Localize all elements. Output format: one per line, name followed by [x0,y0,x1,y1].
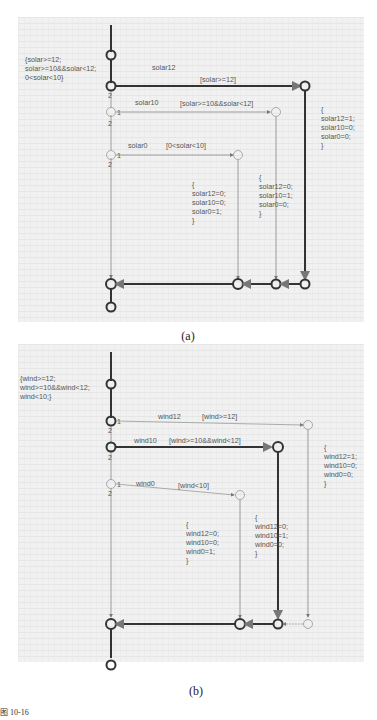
svg-text:{: { [186,520,189,529]
svg-text:wind12=0;: wind12=0; [185,529,219,538]
svg-text:solar12=1;: solar12=1; [321,114,355,123]
svg-text:wind<10;}: wind<10;} [19,392,52,401]
svg-text:2: 2 [108,92,112,99]
panel-b-diagram: 1 2 2 1 2 {wind>=12; wind>=10&&wind<12; … [19,352,357,698]
junction-node [106,619,116,629]
svg-text:{: { [259,173,262,182]
svg-text:0<solar<10}: 0<solar<10} [25,73,64,82]
svg-text:wind0=1;: wind0=1; [185,547,215,556]
svg-text:wind0=0;: wind0=0; [254,540,284,549]
panel-a-diagram: 2 1 2 1 2 {solar>=12; solar>=10&&solar<1… [25,25,355,343]
svg-text:{: { [255,513,258,522]
action-block-12: { wind12=1; wind10=0; wind0=0; } [323,443,357,488]
svg-text:wind0=0;: wind0=0; [323,470,353,479]
svg-text:2: 2 [108,427,112,434]
svg-text:{: { [324,443,327,452]
junction-node [234,151,243,160]
junction-node [272,280,281,289]
svg-text:wind10=0;: wind10=0; [185,538,219,547]
svg-text:1: 1 [117,152,121,159]
action-block-0: { solar12=0; solar10=0; solar0=1; } [192,180,226,225]
svg-text:}: } [255,549,258,558]
event-label: wind0 [135,479,155,488]
caption-b: (b) [189,684,203,698]
condition-note: {solar>=12; [25,55,61,64]
action-block-0: { wind12=0; wind10=0; wind0=1; } [185,520,219,565]
svg-text:solar10=0;: solar10=0; [321,123,355,132]
svg-text:2: 2 [108,490,112,497]
event-label: solar10 [135,98,159,107]
junction-node [106,279,116,289]
svg-text:2: 2 [108,120,112,127]
svg-text:}: } [321,141,324,150]
guard-label: [solar>=10&&solar<12] [180,99,253,108]
event-label: solar0 [128,141,148,150]
junction-node [107,303,116,312]
svg-text:solar12=0;: solar12=0; [192,189,226,198]
junction-node [273,442,283,452]
svg-text:{: { [192,180,195,189]
action-block-12: { solar12=1; solar10=0; solar0=0; } [321,105,355,150]
svg-text:solar0=0;: solar0=0; [259,200,289,209]
svg-text:solar0=0;: solar0=0; [321,132,351,141]
svg-text:wind12=0;: wind12=0; [254,522,288,531]
junction-node [301,82,310,91]
svg-text:1: 1 [117,109,121,116]
guard-label: [solar>=12] [200,75,236,84]
junction-node [233,279,243,289]
svg-text:}: } [259,209,262,218]
caption-a: (a) [181,329,194,343]
svg-text:}: } [192,216,195,225]
svg-text:solar0=1;: solar0=1; [192,207,222,216]
figure-footer: 图 10-16 [0,706,29,717]
junction-node [235,619,245,629]
svg-text:2: 2 [108,454,112,461]
svg-text:wind>=10&&wind<12;: wind>=10&&wind<12; [19,383,90,392]
svg-text:solar10=0;: solar10=0; [192,198,226,207]
svg-text:solar10=1;: solar10=1; [259,191,293,200]
svg-text:}: } [324,479,327,488]
svg-text:{: { [321,105,324,114]
svg-text:solar>=10&&solar<12;: solar>=10&&solar<12; [25,64,96,73]
event-label: wind10 [133,436,157,445]
junction-node [272,108,281,117]
svg-text:1: 1 [117,418,121,425]
junction-node [274,620,283,629]
flowchart-canvas: 2 1 2 1 2 {solar>=12; solar>=10&&solar<1… [0,0,377,720]
junction-node [304,620,313,629]
guard-label: [wind>=10&&wind<12] [169,436,241,445]
svg-text:wind10=1;: wind10=1; [254,531,288,540]
svg-text:}: } [186,556,189,565]
svg-text:wind12=1;: wind12=1; [323,452,357,461]
svg-text:2: 2 [108,161,112,168]
junction-node [107,661,116,670]
guard-label: [0<solar<10] [166,141,206,150]
guard-label: [wind<10] [178,481,209,490]
junction-node [301,280,310,289]
event-label: solar12 [152,63,176,72]
condition-note: {wind>=12; [20,374,56,383]
svg-text:wind10=0;: wind10=0; [323,461,357,470]
junction-node [236,491,245,500]
svg-text:solar12=0;: solar12=0; [259,182,293,191]
guard-label: [wind>=12] [202,412,237,421]
junction-node [304,421,313,430]
svg-text:1: 1 [117,481,121,488]
action-block-10: { wind12=0; wind10=1; wind0=0; } [254,513,288,558]
junction-node [107,480,116,489]
event-label: wind12 [157,412,181,421]
